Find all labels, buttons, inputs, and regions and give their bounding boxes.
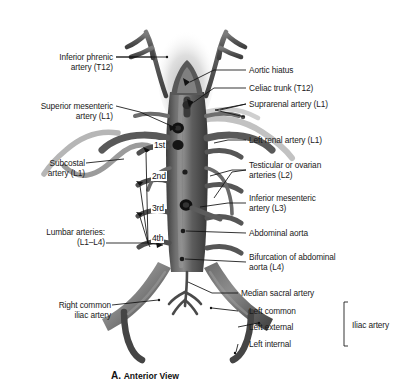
label-testicular-ovarian-arteries: Testicular or ovarianarteries (L2) (249, 160, 321, 180)
caption-text: Anterior View (124, 371, 179, 381)
lumbar-arteries-vessel (138, 146, 169, 247)
label-median-sacral-artery: Median sacral artery (241, 288, 314, 298)
label-left-external-iliac: Left external (249, 322, 293, 332)
label-line-1: Testicular or ovarian (249, 160, 321, 170)
label-lumbar-arteries: Lumbar arteries:(L1–L4) (13, 227, 105, 247)
aorta-ostium-low (180, 257, 185, 262)
label-line-1: Lumbar arteries: (46, 227, 105, 237)
label-celiac-trunk: Celiac trunk (T12) (249, 83, 313, 93)
median-sacral-artery-vessel (169, 272, 201, 314)
lumbar-ordinal-3rd: 3rd (151, 203, 165, 213)
label-abdominal-aorta: Abdominal aorta (249, 228, 308, 238)
figure-caption: A. Anterior View (0, 370, 290, 381)
label-line-1: Right common (59, 300, 111, 310)
lumbar-arteries-left-vessel (207, 151, 241, 253)
label-suprarenal-artery: Suprarenal artery (L1) (249, 99, 328, 109)
lumbar-ordinal-2nd: 2nd (151, 171, 167, 181)
label-line-1: Bifurcation of abdominal (249, 252, 336, 262)
label-inferior-phrenic-artery: Inferior phrenicartery (T12) (13, 52, 113, 72)
label-iliac-artery-group: Iliac artery (352, 320, 389, 330)
label-line-1: Superior mesenteric (41, 101, 113, 111)
label-superior-mesenteric-artery: Superior mesentericartery (L1) (3, 101, 113, 121)
aorta-highlight (180, 96, 182, 266)
label-line-1: Inferior phrenic (59, 52, 113, 62)
aorta-ostium-mid (181, 229, 186, 234)
caption-letter: A. (111, 370, 121, 381)
label-line-2: artery (T12) (71, 62, 113, 72)
label-line-1: Subcostal (49, 158, 85, 168)
label-left-internal-iliac: Left internal (249, 339, 291, 349)
label-line-2: artery (L1) (48, 168, 85, 178)
lumbar-ordinal-4th: 4th (151, 233, 164, 243)
label-line-2: iliac artery (74, 310, 111, 320)
iliac-artery-bracket (344, 302, 348, 346)
label-line-2: (L1–L4) (77, 237, 105, 247)
label-line-2: artery (L3) (249, 203, 286, 213)
label-subcostal-artery: Subcostalartery (L1) (13, 158, 85, 178)
testicular-ostium (182, 169, 187, 174)
label-line-1: Inferior mesenteric (249, 193, 316, 203)
label-aortic-hiatus: Aortic hiatus (249, 65, 293, 75)
label-line-2: arteries (L2) (249, 170, 292, 180)
label-line-2: aorta (L4) (249, 262, 284, 272)
label-left-renal-artery: Left renal artery (L1) (249, 135, 322, 145)
label-bifurcation-abdominal-aorta: Bifurcation of abdominalaorta (L4) (249, 252, 336, 272)
label-left-common-iliac: Left common (249, 306, 296, 316)
label-line-2: artery (L1) (76, 111, 113, 121)
label-inferior-mesenteric-artery: Inferior mesentericartery (L3) (249, 193, 316, 213)
label-right-common-iliac-artery: Right commoniliac artery (23, 300, 111, 320)
abdominal-aorta-vessel (166, 92, 208, 272)
lumbar-ordinal-1st: 1st (153, 140, 166, 150)
